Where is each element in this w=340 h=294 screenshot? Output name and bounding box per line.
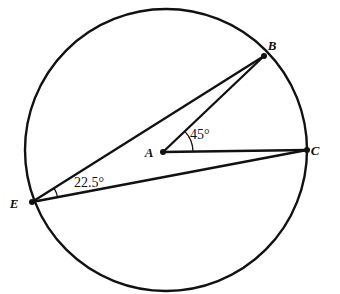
angle-arc-bec: [54, 188, 58, 197]
point-label-e: E: [9, 196, 19, 211]
angle-label-22-5: 22.5°: [74, 175, 104, 190]
vertex-dot-c: [304, 147, 310, 153]
vertex-dot-e: [29, 199, 35, 205]
vertex-dot-a: [160, 149, 166, 155]
geometry-canvas: A B C E 45° 22.5°: [0, 0, 340, 294]
segment-radius-ac: [163, 150, 307, 152]
point-label-a: A: [144, 145, 154, 160]
segment-radius-ab: [163, 56, 264, 152]
point-label-c: C: [311, 143, 320, 158]
vertex-dot-b: [261, 53, 267, 59]
geometry-figure: A B C E 45° 22.5°: [0, 0, 340, 294]
angle-label-45: 45°: [190, 127, 210, 142]
point-label-b: B: [267, 38, 277, 53]
